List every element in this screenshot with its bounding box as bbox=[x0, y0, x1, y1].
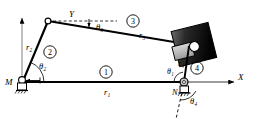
joint-label-n: N bbox=[171, 87, 179, 97]
link-badge-1-text: 1 bbox=[104, 68, 108, 77]
pivot-circle-m bbox=[19, 77, 26, 84]
pivot-center-n bbox=[183, 81, 186, 84]
ground-pivot-m bbox=[15, 77, 28, 94]
pin-joint-a-circle bbox=[45, 18, 51, 24]
joint-label-m: M bbox=[4, 77, 13, 87]
angle-label-theta4: θ₄ bbox=[190, 96, 197, 106]
angle-label-theta3: θ₃ bbox=[96, 22, 103, 32]
slider-block-group bbox=[168, 22, 216, 67]
link-badge-2-text: 2 bbox=[48, 48, 52, 57]
link-1-ground bbox=[24, 78, 184, 84]
link-3-coupler bbox=[48, 19, 192, 45]
link-3-length-label: r₃ bbox=[139, 30, 145, 40]
diagram-canvas: Y X M N r₁ r₂ r₃ r₄ θ₁ θ₂ θ₃ θ₄ 1 2 3 4 bbox=[0, 0, 258, 125]
link-3-line bbox=[48, 21, 192, 45]
link-badge-3-text: 3 bbox=[131, 17, 135, 26]
angle-label-theta1: θ₁ bbox=[167, 67, 174, 76]
link-badge-2: 2 bbox=[44, 46, 56, 58]
pivot-base-n bbox=[180, 86, 189, 93]
ground-pivot-n bbox=[178, 78, 191, 96]
pivot-base-m bbox=[18, 83, 27, 90]
link-4-length-label: r₄ bbox=[178, 58, 184, 68]
pin-joint-a bbox=[45, 18, 51, 24]
link-badge-3: 3 bbox=[127, 15, 139, 27]
angle-label-theta2: θ₂ bbox=[39, 61, 46, 71]
y-axis-label: Y bbox=[69, 9, 75, 19]
x-axis-label: X bbox=[237, 72, 244, 82]
link-badge-4-text: 4 bbox=[195, 64, 199, 73]
link-1-length-label: r₁ bbox=[104, 87, 110, 97]
link-badge-1: 1 bbox=[100, 66, 112, 78]
linkage-diagram-svg: Y X M N r₁ r₂ r₃ r₄ θ₁ θ₂ θ₃ θ₄ 1 2 3 4 bbox=[0, 0, 258, 125]
link-badge-4: 4 bbox=[191, 62, 203, 74]
link-2-length-label: r₂ bbox=[26, 42, 32, 52]
